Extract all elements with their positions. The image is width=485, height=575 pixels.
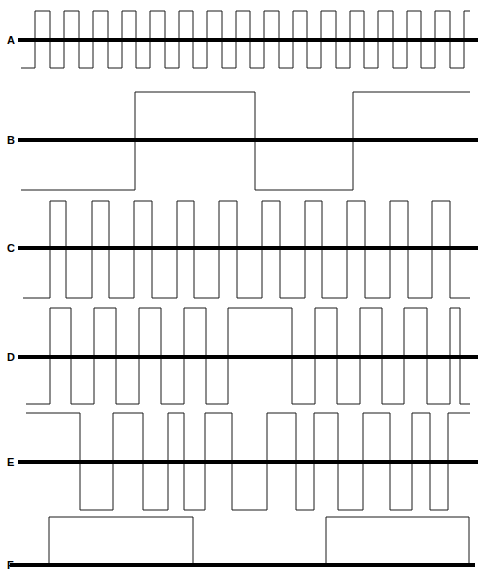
waveform-trace-b <box>18 92 478 190</box>
waveform-trace-c <box>18 201 478 298</box>
trace-label-a: A <box>7 34 15 46</box>
trace-label-group: ABCDEF <box>7 34 15 571</box>
waveform-trace-f <box>10 517 475 565</box>
timing-diagram-canvas: ABCDEF <box>0 0 485 575</box>
trace-label-d: D <box>7 351 15 363</box>
waveform-trace-group <box>10 11 478 565</box>
trace-label-c: C <box>7 242 15 254</box>
trace-label-e: E <box>7 456 14 468</box>
waveform-trace-e <box>18 413 478 510</box>
waveform-trace-a <box>18 11 478 68</box>
trace-label-b: B <box>7 134 15 146</box>
wave-path-f <box>10 517 475 565</box>
waveform-trace-d <box>18 308 478 404</box>
trace-label-f: F <box>7 559 14 571</box>
